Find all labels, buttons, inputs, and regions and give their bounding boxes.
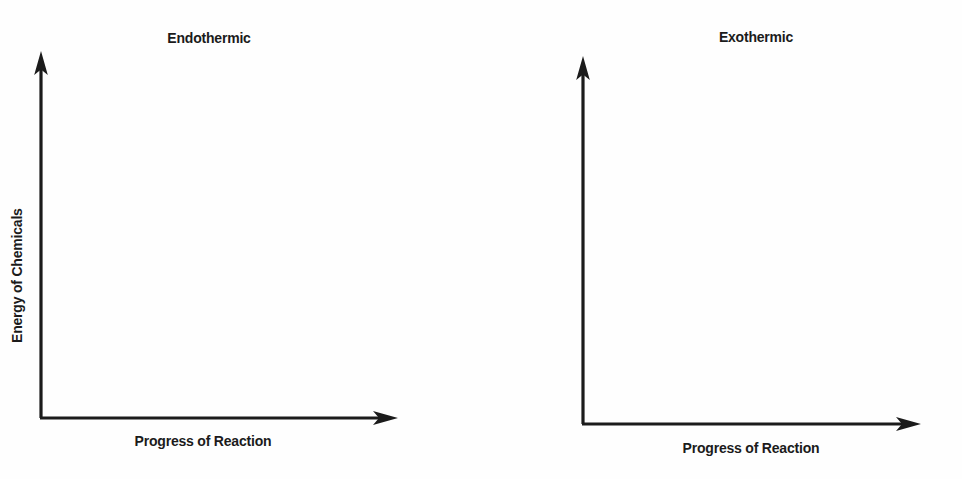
- figure-sheet: Endothermic Progress of Reaction Energy …: [0, 0, 962, 479]
- endothermic-x-axis-label: Progress of Reaction: [103, 433, 303, 449]
- endothermic-y-axis-label: Energy of Chemicals: [9, 208, 25, 343]
- exothermic-diagram-panel: Exothermic Progress of Reaction Energy o…: [481, 0, 962, 479]
- endothermic-diagram-panel: Endothermic Progress of Reaction Energy …: [0, 0, 481, 479]
- exothermic-axes: [481, 0, 962, 479]
- endothermic-axes: [0, 0, 481, 479]
- exothermic-x-axis-label: Progress of Reaction: [651, 440, 851, 456]
